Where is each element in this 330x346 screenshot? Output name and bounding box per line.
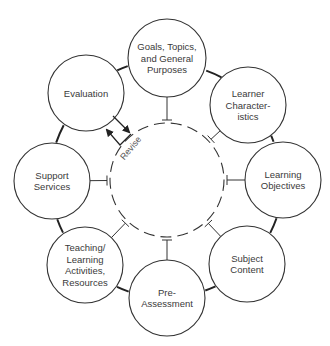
node-label-line: Learner bbox=[232, 88, 265, 99]
node-content: SubjectContent bbox=[209, 226, 285, 302]
node-label-line: Learning bbox=[67, 254, 104, 265]
node-label-line: Goals, Topics, bbox=[137, 41, 197, 52]
node-label-line: Subject bbox=[231, 253, 263, 264]
node-label-line: Activities, bbox=[65, 265, 105, 276]
node-label-line: istics bbox=[237, 111, 258, 122]
spoke-line bbox=[111, 223, 125, 237]
node-preassessment: Pre-Assessment bbox=[129, 260, 205, 336]
node-objectives: LearningObjectives bbox=[245, 142, 321, 218]
node-label-line: Character- bbox=[226, 100, 271, 111]
node-goals: Goals, Topics,and GeneralPurposes bbox=[128, 19, 206, 97]
ring-connector bbox=[205, 286, 215, 290]
stage-nodes: Goals, Topics,and GeneralPurposesLearner… bbox=[14, 19, 321, 336]
node-learner: LearnerCharacter-istics bbox=[210, 67, 286, 143]
node-label-line: Assessment bbox=[141, 298, 193, 309]
design-cycle-diagram: Goals, Topics,and GeneralPurposesLearner… bbox=[0, 0, 330, 346]
node-label-line: Services bbox=[34, 181, 71, 192]
node-support: SupportServices bbox=[14, 143, 90, 219]
node-evaluation: Evaluation bbox=[48, 55, 124, 131]
ring-connector bbox=[117, 66, 127, 70]
ring-connector bbox=[206, 71, 221, 78]
node-label-line: Support bbox=[35, 170, 69, 181]
revise-feedback-loop: Revise bbox=[107, 116, 143, 162]
ring-connector bbox=[57, 219, 63, 232]
node-label-line: and General bbox=[141, 53, 193, 64]
spoke-line bbox=[211, 131, 220, 139]
ring-connector bbox=[56, 125, 64, 142]
revise-arrow-out bbox=[113, 116, 129, 132]
node-label-line: Content bbox=[230, 264, 264, 275]
node-label-line: Resources bbox=[62, 277, 108, 288]
node-label-line: Objectives bbox=[261, 180, 306, 191]
central-dashed-circle bbox=[110, 123, 224, 237]
node-label-line: Teaching/ bbox=[65, 242, 106, 253]
ring-connector bbox=[270, 218, 276, 233]
ring-connector bbox=[117, 287, 129, 292]
spoke-line bbox=[208, 223, 220, 236]
node-teaching: Teaching/LearningActivities,Resources bbox=[47, 227, 123, 303]
node-label-line: Purposes bbox=[147, 64, 187, 75]
node-label-line: Pre- bbox=[158, 287, 176, 298]
node-label-line: Evaluation bbox=[64, 88, 108, 99]
revise-label: Revise bbox=[118, 134, 143, 162]
node-label-line: Learning bbox=[265, 169, 302, 180]
ring-connector bbox=[271, 136, 273, 142]
